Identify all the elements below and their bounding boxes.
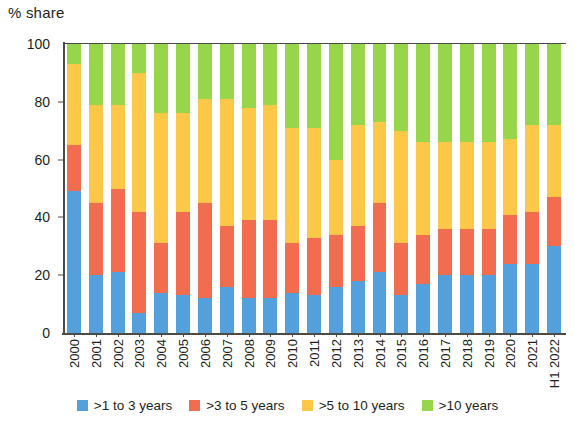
x-tick-mark [336, 333, 337, 337]
bar-segment [220, 226, 234, 287]
stacked-bar [503, 44, 517, 333]
x-label-slot: 2019 [478, 337, 500, 399]
x-tick-label: 2001 [88, 339, 103, 368]
x-tick-label: 2017 [437, 339, 452, 368]
stacked-bar [154, 44, 168, 333]
bar-segment [67, 64, 81, 145]
bar-segment [394, 44, 408, 131]
bar-segment [132, 313, 146, 333]
legend-item[interactable]: >3 to 5 years [189, 398, 284, 413]
bar-segment [525, 212, 539, 264]
y-tick-label: 100 [4, 36, 50, 52]
stacked-bar [482, 44, 496, 333]
stacked-bar [111, 44, 125, 333]
x-tick-label: 2000 [66, 339, 81, 368]
bar-slot [259, 44, 281, 333]
bar-slot [63, 44, 85, 333]
bar-segment [503, 215, 517, 264]
x-label-slot: 2002 [107, 337, 129, 399]
bar-segment [198, 203, 212, 298]
bar-segment [503, 264, 517, 333]
legend-item[interactable]: >10 years [422, 398, 499, 413]
bar-segment [154, 243, 168, 292]
bar-segment [263, 220, 277, 298]
x-label-slot: H1 2022 [543, 337, 565, 399]
x-tick-mark [314, 333, 315, 337]
bar-segment [482, 44, 496, 142]
bar-segment [438, 229, 452, 275]
stacked-bar [176, 44, 190, 333]
legend-item[interactable]: >5 to 10 years [302, 398, 405, 413]
stacked-bar-chart: % share 100806040200 2000200120022003200… [0, 0, 575, 423]
bar-segment [285, 128, 299, 244]
bar-slot [238, 44, 260, 333]
bar-group [63, 44, 565, 333]
x-tick-mark [139, 333, 140, 337]
bar-segment [198, 298, 212, 333]
bar-segment [460, 44, 474, 142]
x-tick-label: 2011 [307, 339, 322, 367]
bar-segment [220, 287, 234, 333]
x-tick-mark [554, 333, 555, 337]
x-tick-label: 2013 [350, 339, 365, 368]
bar-segment [111, 44, 125, 105]
x-tick-mark [205, 333, 206, 337]
bar-segment [525, 125, 539, 212]
bar-segment [547, 246, 561, 333]
legend-label: >5 to 10 years [319, 398, 405, 413]
bar-slot [85, 44, 107, 333]
x-label-slot: 2016 [412, 337, 434, 399]
bar-segment [307, 295, 321, 333]
bar-segment [307, 128, 321, 238]
bar-segment [307, 44, 321, 128]
x-label-slot: 2007 [216, 337, 238, 399]
x-tick-mark [96, 333, 97, 337]
bar-segment [373, 272, 387, 333]
stacked-bar [220, 44, 234, 333]
y-tick-label: 60 [4, 152, 50, 168]
x-tick-mark [249, 333, 250, 337]
bar-segment [525, 44, 539, 125]
bar-segment [351, 281, 365, 333]
stacked-bar [329, 44, 343, 333]
y-tick-label: 40 [4, 209, 50, 225]
bar-segment [482, 142, 496, 229]
y-axis-title: % share [8, 4, 64, 21]
x-label-slot: 2006 [194, 337, 216, 399]
bar-slot [500, 44, 522, 333]
bar-segment [285, 44, 299, 128]
x-tick-label: 2010 [285, 339, 300, 368]
bar-slot [303, 44, 325, 333]
x-label-slot: 2004 [150, 337, 172, 399]
x-label-slot: 2015 [390, 337, 412, 399]
legend-item[interactable]: >1 to 3 years [77, 398, 172, 413]
x-label-slot: 2014 [369, 337, 391, 399]
legend-swatch-icon [422, 400, 433, 411]
bar-segment [329, 287, 343, 333]
x-tick-mark [358, 333, 359, 337]
x-label-slot: 2021 [521, 337, 543, 399]
x-tick-label: 2018 [459, 339, 474, 368]
x-tick-label: 2015 [394, 339, 409, 368]
y-tick-label: 0 [4, 325, 50, 341]
x-tick-mark [510, 333, 511, 337]
x-tick-label: H1 2022 [547, 339, 562, 388]
bar-segment [460, 275, 474, 333]
stacked-bar [373, 44, 387, 333]
stacked-bar [89, 44, 103, 333]
bar-slot [478, 44, 500, 333]
bar-segment [176, 295, 190, 333]
x-tick-label: 2004 [154, 339, 169, 368]
x-tick-mark [445, 333, 446, 337]
bar-segment [242, 44, 256, 108]
x-label-slot: 2012 [325, 337, 347, 399]
bar-segment [263, 105, 277, 221]
bar-segment [132, 212, 146, 313]
bar-segment [329, 160, 343, 235]
bar-segment [67, 145, 81, 191]
bar-segment [89, 44, 103, 105]
bar-segment [438, 44, 452, 142]
x-tick-mark [489, 333, 490, 337]
x-tick-mark [118, 333, 119, 337]
bar-slot [390, 44, 412, 333]
